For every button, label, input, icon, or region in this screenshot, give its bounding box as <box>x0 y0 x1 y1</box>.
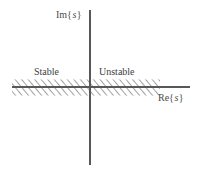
diagram-canvas <box>0 0 200 173</box>
real-axis-label: Re{s} <box>158 92 184 103</box>
stable-region-label: Stable <box>34 66 59 77</box>
real-axis-label-prefix: Re <box>158 92 169 103</box>
imaginary-axis-label: Im{s} <box>56 9 82 20</box>
s-plane-stability-diagram: Im{s} Re{s} Stable Unstable <box>0 0 200 173</box>
imaginary-axis-label-prefix: Im <box>56 9 67 20</box>
unstable-region-label: Unstable <box>99 66 135 77</box>
real-axis-label-close-brace: } <box>179 92 184 103</box>
imaginary-axis-label-close-brace: } <box>77 9 82 20</box>
